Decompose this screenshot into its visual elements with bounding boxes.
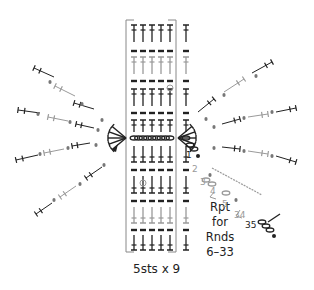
round-number: 5 [222, 199, 228, 209]
repeat-note-line: 6–33 [203, 245, 237, 260]
repeat-note: Rpt for Rnds 6–33 [203, 200, 237, 260]
stitch-rays [15, 59, 297, 238]
round-number: 35 [245, 220, 256, 230]
repeat-note-line: Rnds [203, 230, 237, 245]
crochet-chart [0, 0, 314, 290]
round-number: 4 [210, 186, 216, 196]
round-number: 1 [186, 150, 192, 160]
round-number: 3 [200, 177, 206, 187]
round-number: 34 [234, 210, 245, 220]
repeat-label: 5sts x 9 [133, 262, 180, 276]
round-number: 2 [192, 164, 198, 174]
repeat-note-line: Rpt [203, 200, 237, 215]
repeat-note-line: for [203, 215, 237, 230]
